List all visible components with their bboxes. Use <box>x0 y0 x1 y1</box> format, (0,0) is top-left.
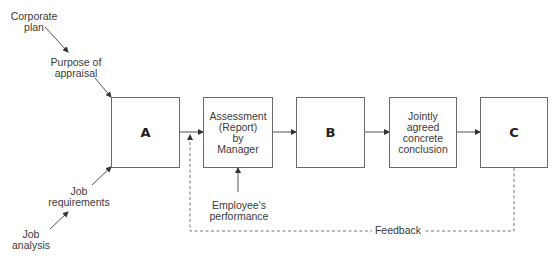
box-a: A <box>111 97 180 168</box>
connector-layer <box>0 0 559 259</box>
box-c: C <box>480 97 548 168</box>
label-feedback: Feedback <box>372 225 424 236</box>
label-job-analysis: Job analysis <box>8 229 54 251</box>
box-jointly-agreed: Jointly agreed concrete conclusion <box>389 97 457 168</box>
arrow-purpose-to-a <box>95 78 111 97</box>
box-assessment: Assessment (Report) by Manager <box>203 97 273 168</box>
label-employees-performance: Employee's performance <box>206 200 272 222</box>
label-purpose-of-appraisal: Purpose of appraisal <box>46 57 106 79</box>
arrow-requirements-to-a <box>92 167 111 185</box>
label-corporate-plan: Corporate plan <box>6 11 62 33</box>
box-b: B <box>296 97 365 168</box>
label-job-requirements: Job requirements <box>46 186 112 208</box>
arrow-job-analysis-to-requirements <box>50 212 68 229</box>
